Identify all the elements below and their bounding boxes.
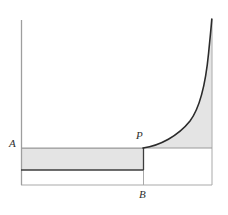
figure-canvas: A P B	[0, 0, 228, 215]
point-label-a: A	[9, 138, 16, 149]
shaded-area-under-curve	[143, 19, 212, 148]
geometry-diagram	[0, 0, 228, 215]
point-label-b: B	[139, 189, 146, 200]
point-label-p: P	[136, 130, 143, 141]
shaded-rectangle-band	[21, 148, 143, 170]
